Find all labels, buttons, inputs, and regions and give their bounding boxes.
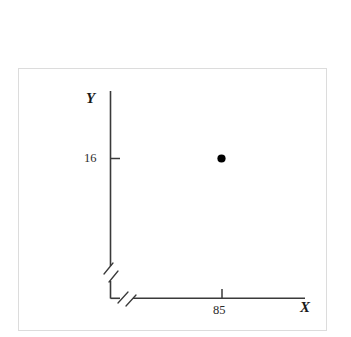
x-axis-label: X bbox=[300, 300, 310, 315]
y-axis-break-icon bbox=[104, 263, 118, 282]
plot-canvas bbox=[0, 0, 351, 337]
figure-root: Y X 16 85 bbox=[0, 0, 351, 337]
data-point-marker bbox=[217, 154, 225, 162]
y-axis-label: Y bbox=[86, 91, 95, 106]
x-axis-tick-label: 85 bbox=[213, 304, 226, 317]
y-axis-tick-label: 16 bbox=[84, 152, 97, 165]
